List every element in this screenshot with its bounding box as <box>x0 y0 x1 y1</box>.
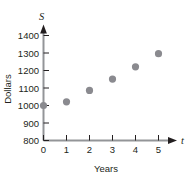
x-tick-label: 0 <box>41 144 46 155</box>
chart-canvas: 800 900 1000 1100 1200 1300 1400 0 1 2 3… <box>0 0 193 182</box>
y-axis-arrowhead <box>40 25 47 34</box>
y-tick-label: 900 <box>23 118 39 129</box>
y-tick-label: 1000 <box>18 100 39 111</box>
scatter-chart: 800 900 1000 1100 1200 1300 1400 0 1 2 3… <box>0 0 193 182</box>
y-tick-label: 1300 <box>18 48 39 59</box>
x-axis-variable-label: t <box>181 135 185 146</box>
x-tick-label: 3 <box>110 144 115 155</box>
data-point <box>132 63 139 70</box>
y-axis-title: Dollars <box>2 74 13 104</box>
x-tick-label: 2 <box>87 144 92 155</box>
x-axis-tick-labels: 0 1 2 3 4 5 <box>41 144 161 155</box>
data-point <box>109 76 116 83</box>
y-tick-label: 1200 <box>18 65 39 76</box>
x-axis-title: Years <box>94 163 118 174</box>
data-point <box>86 87 93 94</box>
data-point <box>63 98 70 105</box>
x-tick-label: 5 <box>156 144 161 155</box>
y-tick-label: 800 <box>23 135 39 146</box>
x-tick-label: 1 <box>64 144 69 155</box>
data-point <box>155 50 162 57</box>
x-tick-label: 4 <box>133 144 138 155</box>
x-axis-arrowhead <box>168 137 177 144</box>
y-tick-label: 1400 <box>18 30 39 41</box>
y-axis-tick-labels: 800 900 1000 1100 1200 1300 1400 <box>18 30 39 146</box>
data-point <box>40 102 47 109</box>
y-tick-label: 1100 <box>19 83 39 94</box>
x-axis <box>44 137 178 144</box>
data-points <box>40 50 162 109</box>
y-axis-variable-label: S <box>39 11 45 22</box>
